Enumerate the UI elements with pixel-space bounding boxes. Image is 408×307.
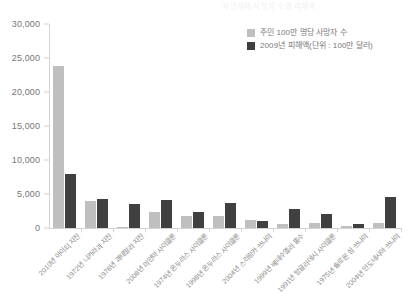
y-axis-tick-mark [44,92,49,93]
legend-item-deaths: 주민 100만 명당 사망자 수 [247,26,373,39]
bar-damage [385,197,396,228]
x-axis-tick-mark [81,228,82,232]
bar-group [341,24,373,228]
bar-damage [97,199,108,228]
legend-label-damage: 2009년 피해액(단위 : 100만 달러) [260,39,373,52]
bar-deaths [117,227,128,228]
bar-damage [289,209,300,228]
x-axis-tick-mark [273,228,274,232]
chart-legend: 주민 100만 명당 사망자 수 2009년 피해액(단위 : 100만 달러) [247,26,373,52]
x-axis-tick-mark [305,228,306,232]
bar-group [373,24,405,228]
bar-damage [257,221,268,228]
bar-group [277,24,309,228]
x-axis-tick-label: 1991년 방글라데시 사이클론 [275,231,338,294]
x-axis-tick-label: 1974년 온두라스 사이클론 [151,231,210,290]
bar-deaths [341,226,352,228]
bar-group [309,24,341,228]
bar-damage [353,224,364,228]
legend-item-damage: 2009년 피해액(단위 : 100만 달러) [247,39,373,52]
bar-deaths [277,224,288,228]
y-axis-tick-mark [44,126,49,127]
x-axis-tick-mark [209,228,210,232]
bar-deaths [181,216,192,228]
legend-swatch-icon-deaths [247,29,255,37]
x-axis-tick-label: 1998년 온두라스 사이클론 [183,231,242,290]
bar-deaths [53,66,64,228]
y-axis-tick-mark [44,58,49,59]
legend-swatch-icon-damage [247,42,255,50]
y-axis-tick-mark [44,24,49,25]
bar-deaths [309,223,320,228]
bar-deaths [85,201,96,228]
x-axis-tick-mark [177,228,178,232]
bar-deaths [245,220,256,228]
x-axis-tick-label: 2004년 인도네시아 쓰나미 [343,231,402,290]
y-axis-tick-mark [44,160,49,161]
bar-damage [193,212,204,228]
bar-deaths [373,223,384,228]
bar-group [117,24,149,228]
bar-deaths [213,216,224,228]
bar-group [181,24,213,228]
plot-area: 05,00010,00015,00020,00025,00030,000 [49,24,401,228]
bar-damage [65,174,76,228]
bar-damage [129,204,140,228]
bar-damage [225,203,236,228]
bar-group [245,24,277,228]
chart-title: 자연재해 사망자 수와 피해액 [130,0,408,11]
x-axis-tick-mark [145,228,146,232]
bar-damage [161,200,172,228]
bar-damage [321,214,332,228]
bar-group [53,24,85,228]
x-axis-tick-mark [401,228,402,232]
y-axis-tick-mark [44,194,49,195]
legend-label-deaths: 주민 100만 명당 사망자 수 [260,26,347,39]
bar-group [149,24,181,228]
bar-group [85,24,117,228]
y-axis-tick-mark [44,228,49,229]
x-axis-tick-mark [369,228,370,232]
bar-group [213,24,245,228]
x-axis-tick-mark [113,228,114,232]
bar-chart: 자연재해 사망자 수와 피해액 05,00010,00015,00020,000… [0,0,408,307]
x-axis-tick-mark [241,228,242,232]
x-axis-line [49,228,401,229]
bar-deaths [149,212,160,228]
x-axis-tick-mark [337,228,338,232]
